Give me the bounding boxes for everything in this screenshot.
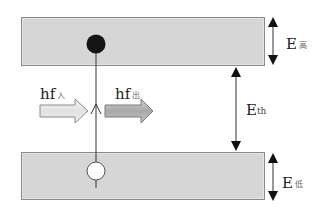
- outgoing-photon-label-sub: 出: [132, 91, 140, 100]
- energy-gap-label-main: E: [246, 101, 257, 119]
- outgoing-photon-label-main: hf: [115, 85, 130, 103]
- energy-gap-label: Eth: [246, 102, 266, 118]
- incoming-photon-label-main: hf: [40, 85, 55, 103]
- upper-band-label-main: E: [286, 35, 297, 53]
- diagram-graphics: [0, 0, 319, 213]
- lower-band-label: E低: [282, 175, 303, 191]
- upper-band-label-sub: 高: [299, 41, 307, 50]
- energy-band-diagram: hf入 hf出 E高 E低 Eth: [0, 0, 319, 213]
- lower-band-label-sub: 低: [295, 180, 303, 189]
- lower-band-height-double-arrow-icon: [268, 153, 278, 201]
- outgoing-photon-label: hf出: [115, 86, 140, 102]
- energy-gap-double-arrow-icon: [231, 67, 241, 151]
- energy-gap-label-sub: th: [257, 106, 266, 116]
- hole-empty-circle-icon: [87, 162, 105, 180]
- electron-filled-circle-icon: [87, 35, 106, 54]
- lower-band-label-main: E: [282, 174, 293, 192]
- incoming-photon-label-sub: 入: [57, 91, 65, 100]
- upper-band-height-double-arrow-icon: [268, 17, 278, 65]
- upper-band-label: E高: [286, 36, 307, 52]
- incoming-photon-label: hf入: [40, 86, 65, 102]
